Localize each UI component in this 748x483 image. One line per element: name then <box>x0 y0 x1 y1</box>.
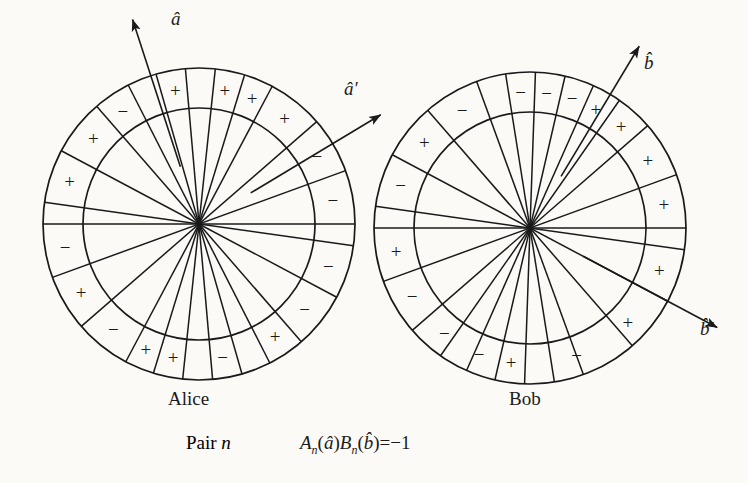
ring-sign-bob-11: − <box>407 286 418 307</box>
vector-label-b-hat: b̂ <box>644 52 654 74</box>
ring-sign-bob-16: + <box>622 312 633 333</box>
ring-sign-alice-14: − <box>217 347 228 368</box>
caption-pair-label: Pair n <box>186 432 231 453</box>
ring-sign-alice-4: + <box>220 80 231 101</box>
party-label-bob: Bob <box>509 388 541 410</box>
ring-sign-alice-7: + <box>88 128 99 149</box>
formula-A: A <box>300 432 312 453</box>
ring-sign-alice-3: + <box>247 88 258 109</box>
ring-sign-bob-3: + <box>591 99 602 120</box>
bell-inequality-dial-figure: −−++++−++−+−++−+−−++++−−−−+−+−−−+−++ <box>0 0 748 483</box>
ring-sign-bob-14: + <box>506 352 517 373</box>
ring-sign-bob-17: + <box>654 260 665 281</box>
ring-sign-bob-5: − <box>541 83 552 104</box>
ring-sign-alice-12: + <box>141 339 152 360</box>
ring-sign-alice-15: + <box>270 326 281 347</box>
ring-sign-alice-10: + <box>76 282 87 303</box>
ring-sign-alice-11: − <box>108 319 119 340</box>
ring-sign-alice-2: + <box>279 108 290 129</box>
formula-value: −1 <box>390 432 410 453</box>
vector-arrow-b-hat <box>561 46 639 176</box>
caption-formula: An(â)Bn(b̂)=−1 <box>300 432 410 458</box>
vector-label-a-hat: â <box>171 8 181 30</box>
ring-sign-bob-9: − <box>395 175 406 196</box>
dial-alice: −−++++−++−+−++−+−− <box>43 20 381 380</box>
ring-sign-alice-16: − <box>299 299 310 320</box>
caption-inner: Pair n <box>186 432 748 454</box>
ring-sign-bob-8: + <box>419 132 430 153</box>
vector-label-b-prime-hat: b̂′ <box>700 318 714 340</box>
ring-sign-alice-8: + <box>64 171 75 192</box>
ring-sign-bob-6: − <box>515 82 526 103</box>
ring-sign-alice-9: − <box>60 237 71 258</box>
ring-sign-bob-2: + <box>616 116 627 137</box>
vector-label-a-prime-hat: â′ <box>344 78 358 100</box>
dial-bob: ++++−−−−+−+−−−+−++ <box>374 46 717 384</box>
ring-sign-bob-1: + <box>642 150 653 171</box>
formula-B: B <box>340 432 352 453</box>
caption-pair-prefix: Pair <box>186 432 221 453</box>
ring-sign-bob-0: + <box>659 194 670 215</box>
formula-equals: = <box>380 432 391 453</box>
ring-sign-alice-5: + <box>170 80 181 101</box>
caption-pair-index: n <box>221 432 231 453</box>
ring-sign-alice-0: − <box>328 190 339 211</box>
ring-sign-alice-13: + <box>168 347 179 368</box>
ring-sign-bob-7: − <box>457 100 468 121</box>
party-label-alice: Alice <box>168 388 209 410</box>
ring-sign-alice-6: − <box>118 101 129 122</box>
ring-sign-bob-10: + <box>391 241 402 262</box>
formula-a-hat: â <box>324 432 334 453</box>
ring-sign-bob-12: − <box>439 323 450 344</box>
ring-sign-bob-15: − <box>571 345 582 366</box>
ring-sign-bob-13: − <box>474 344 485 365</box>
ring-sign-alice-17: − <box>323 256 334 277</box>
ring-sign-bob-4: − <box>567 88 578 109</box>
formula-b-hat: b̂ <box>364 432 374 453</box>
figure-page: −−++++−++−+−++−+−−++++−−−−+−+−−−+−++ â â… <box>0 0 748 483</box>
